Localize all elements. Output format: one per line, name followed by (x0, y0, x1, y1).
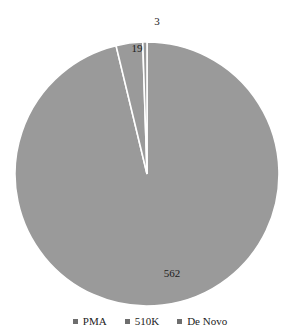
pie-svg (0, 0, 300, 310)
legend-item-de-novo[interactable]: De Novo (177, 316, 227, 327)
legend-item-pma[interactable]: PMA (73, 316, 107, 327)
slice-label-de-novo: 3 (154, 16, 160, 27)
slice-label-510k: 19 (132, 43, 143, 54)
pie-slices-group (15, 42, 279, 306)
chart-legend: PMA 510K De Novo (0, 312, 300, 331)
legend-label-510k: 510K (135, 316, 159, 327)
slice-label-pma: 562 (164, 268, 181, 279)
pie-chart-figure: 562 19 3 PMA 510K De Novo (0, 0, 300, 331)
legend-item-510k[interactable]: 510K (125, 316, 159, 327)
plot-area: 562 19 3 (0, 0, 300, 310)
square-marker-icon (125, 319, 130, 324)
legend-label-pma: PMA (83, 316, 107, 327)
square-marker-icon (73, 319, 78, 324)
square-marker-icon (177, 319, 182, 324)
legend-label-de-novo: De Novo (187, 316, 227, 327)
